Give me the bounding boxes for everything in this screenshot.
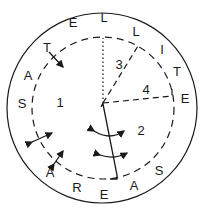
ring-letter: R [72,180,81,195]
solid-boundary-line [101,103,117,179]
region-number: 1 [56,95,63,110]
ring-letter: E [181,91,190,106]
ring-letter: T [173,64,181,79]
ring-letter: S [155,163,164,178]
ring-letter: T [43,40,51,55]
arrow-a-double [54,151,63,164]
ring-letter: S [18,96,27,111]
satellite-areas-diagram: SATELLITEAREAS 1234 [0,0,205,210]
region-number: 2 [137,123,144,138]
ring-letter: E [69,15,78,30]
ring-letter: E [100,187,109,202]
region-number: 3 [115,57,122,72]
ring-letter: A [46,165,55,180]
dashed-radial-line-right [103,89,172,103]
ring-letter: L [100,10,107,25]
region-number: 4 [142,82,149,97]
ring-letter: A [130,178,139,193]
ring-letter: I [160,42,164,57]
dashed-radial-line-upper [103,46,138,103]
arrow-t-inward [49,52,63,67]
ring-letter: L [132,24,139,39]
ring-letter: A [24,68,33,83]
arrow-left-double [32,133,52,142]
outer-circle [7,13,197,203]
